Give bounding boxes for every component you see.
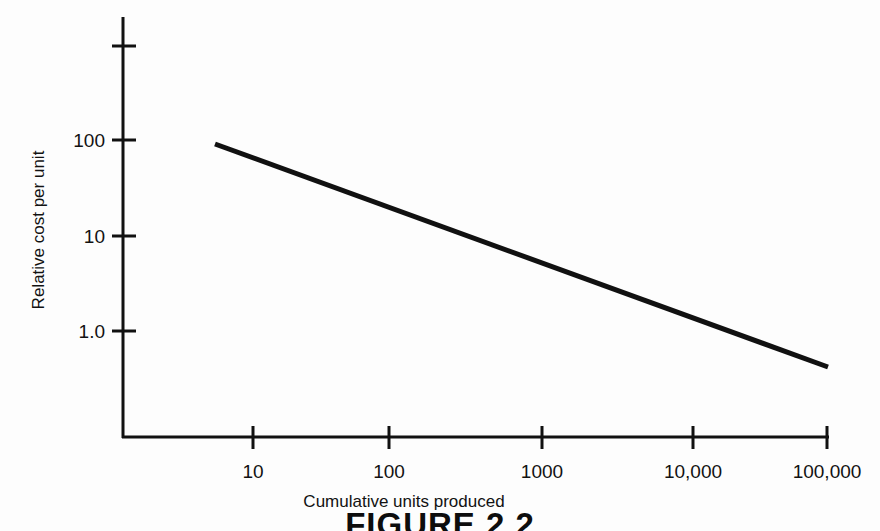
x-tick-label-100000: 100,000 xyxy=(793,461,862,482)
y-axis-tick-labels: 100 10 1.0 xyxy=(73,130,105,342)
y-axis-title: Relative cost per unit xyxy=(29,150,48,309)
experience-curve-line xyxy=(215,144,828,367)
y-tick-label-100: 100 xyxy=(73,130,105,151)
x-tick-label-10: 10 xyxy=(242,461,263,482)
experience-curve-chart: 100 10 1.0 10 100 1000 10,000 100,000 Re… xyxy=(0,0,880,531)
y-tick-label-1: 1.0 xyxy=(79,321,105,342)
x-tick-label-100: 100 xyxy=(373,461,405,482)
x-tick-label-10000: 10,000 xyxy=(664,461,722,482)
figure-container: 100 10 1.0 10 100 1000 10,000 100,000 Re… xyxy=(0,0,880,531)
x-tick-label-1000: 1000 xyxy=(521,461,563,482)
x-axis-tick-labels: 10 100 1000 10,000 100,000 xyxy=(242,461,861,482)
y-tick-label-10: 10 xyxy=(84,226,105,247)
figure-caption: FIGURE 2.2 xyxy=(0,508,880,531)
